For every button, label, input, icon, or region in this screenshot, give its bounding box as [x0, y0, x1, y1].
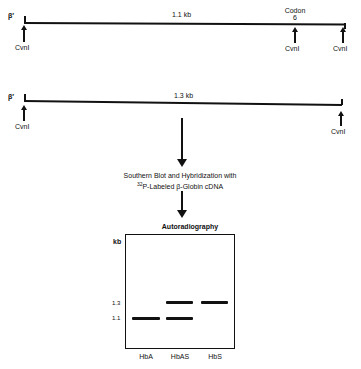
cvni-site-label-3: CvnI [333, 45, 347, 52]
lane-label-hbas: HbAS [165, 353, 195, 360]
codon-label: Codon [283, 7, 307, 14]
process-arrow-down-2 [181, 191, 183, 211]
cvni-site-arrow-2 [294, 31, 296, 43]
cvni-site-arrow-1 [23, 29, 25, 42]
lane-label-hbs: HbS [200, 353, 230, 360]
segment-end-tick [341, 99, 343, 105]
dna-segment-line [24, 100, 342, 105]
segment-start-tick [24, 94, 26, 102]
five-prime-end-label: β′ [8, 93, 14, 100]
marker-label-1-1: 1.1 [112, 315, 120, 321]
band-hbas-1-3kb [166, 301, 193, 304]
codon-number: 6 [283, 14, 307, 21]
band-hbas-1-1kb [166, 317, 193, 320]
cvni-site-arrow-2 [340, 115, 342, 126]
band-hba-1-1kb [132, 317, 160, 320]
fragment-size-label: 1.3 kb [174, 92, 193, 99]
cvni-site-arrow-1 [23, 109, 25, 121]
cvni-site-label-2: CvnI [331, 128, 345, 135]
cvni-site-arrow-3 [342, 31, 344, 43]
process-arrow-down [181, 118, 183, 160]
probe-label: P-Labeled β-Globin cDNA [142, 183, 223, 190]
dna-segment-line [24, 22, 345, 25]
fragment-size-label: 1.1 kb [172, 11, 191, 18]
gel-frame [125, 234, 235, 349]
cvni-site-label-2: CvnI [285, 45, 299, 52]
lane-label-hba: HbA [131, 353, 161, 360]
gel-title: Autoradiography [140, 223, 240, 230]
southern-blot-step-line2: 32P-Labeled β-Globin cDNA [100, 182, 260, 190]
marker-label-1-3: 1.3 [112, 300, 120, 306]
band-hbs-1-3kb [201, 301, 228, 304]
segment-start-tick [24, 16, 26, 24]
gel-y-axis-unit: kb [113, 238, 121, 245]
southern-blot-step-line1: Southern Blot and Hybridization with [100, 172, 260, 179]
cvni-site-label-1: CvnI [15, 44, 29, 51]
cvni-site-label-1: CvnI [15, 123, 29, 130]
five-prime-end-label: β′ [8, 12, 14, 19]
